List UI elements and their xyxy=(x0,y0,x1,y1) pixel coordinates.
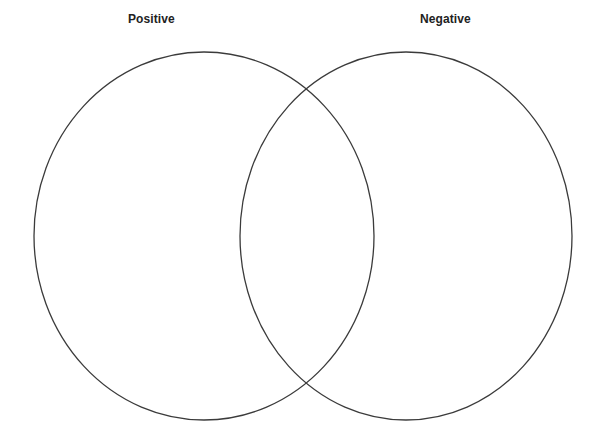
left-only-region[interactable] xyxy=(40,120,230,320)
right-only-region[interactable] xyxy=(385,120,565,320)
right-set-label: Negative xyxy=(420,13,471,25)
venn-diagram-canvas: Positive Negative xyxy=(0,0,607,436)
overlap-region[interactable] xyxy=(250,150,365,300)
left-set-label: Positive xyxy=(128,13,175,25)
